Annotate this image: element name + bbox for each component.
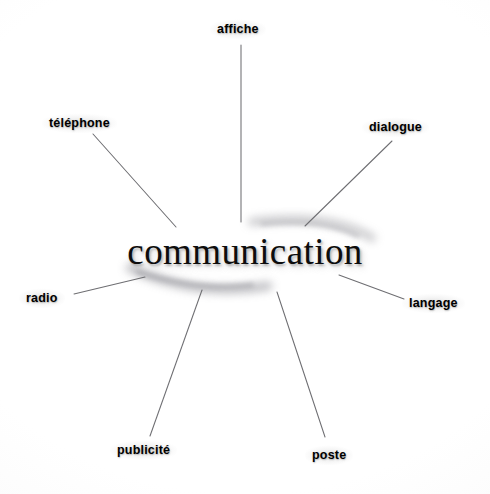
node-label-publicite: publicité [110,440,177,460]
node-label-dialogue: dialogue [362,117,429,137]
connector-line-publicite [150,290,202,436]
node-label-radio: radio [19,288,65,308]
connector-line-poste [277,292,325,437]
mindmap-canvas: communication affiche téléphone dialogue… [0,0,490,494]
node-label-affiche: affiche [210,19,266,39]
center-node-communication: communication [0,230,490,273]
node-label-poste: poste [305,445,353,465]
connector-line-radio [74,277,145,294]
connector-line-dialogue [305,141,392,226]
node-label-telephone: téléphone [42,113,117,133]
node-label-langage: langage [402,293,465,313]
connector-line-langage [339,275,404,299]
connector-line-telephone [93,134,176,227]
